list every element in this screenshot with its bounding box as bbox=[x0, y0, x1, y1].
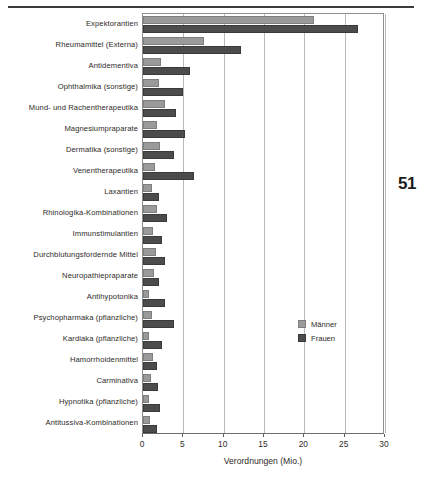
bar-row bbox=[143, 36, 383, 57]
bar-women bbox=[143, 320, 174, 328]
bar-women bbox=[143, 383, 158, 391]
bar-men bbox=[143, 353, 153, 361]
bar-row bbox=[143, 120, 383, 141]
gridline bbox=[385, 14, 386, 433]
bar-row bbox=[143, 268, 383, 289]
bar-row bbox=[143, 415, 383, 436]
bar-men bbox=[143, 79, 159, 87]
bar-row bbox=[143, 352, 383, 373]
bar-row bbox=[143, 247, 383, 268]
bar-women bbox=[143, 151, 174, 159]
bar-men bbox=[143, 142, 160, 150]
bar-women bbox=[143, 109, 176, 117]
bar-women bbox=[143, 299, 165, 307]
bar-men bbox=[143, 100, 165, 108]
bar-women bbox=[143, 257, 165, 265]
bar-row bbox=[143, 226, 383, 247]
category-label: Hypnotika (pflanzliche) bbox=[0, 397, 138, 406]
x-tick-mark bbox=[182, 434, 183, 437]
bar-men bbox=[143, 163, 155, 171]
category-label: Rhinologika-Kombinationen bbox=[0, 208, 138, 217]
category-label: Laxantien bbox=[0, 187, 138, 196]
category-label: Carminativa bbox=[0, 376, 138, 385]
x-tick-mark bbox=[303, 434, 304, 437]
bar-row bbox=[143, 141, 383, 162]
bar-row bbox=[143, 183, 383, 204]
bar-women bbox=[143, 236, 162, 244]
x-tick-label: 5 bbox=[180, 439, 185, 449]
bar-row bbox=[143, 310, 383, 331]
bar-men bbox=[143, 227, 153, 235]
category-label: Dermatika (sonstige) bbox=[0, 145, 138, 154]
x-axis-title: Verordnungen (Mio.) bbox=[142, 456, 384, 466]
x-tick-mark bbox=[384, 434, 385, 437]
bar-women bbox=[143, 425, 157, 433]
bar-women bbox=[143, 88, 183, 96]
x-tick-label: 30 bbox=[379, 439, 388, 449]
bar-women bbox=[143, 67, 190, 75]
bar-men bbox=[143, 290, 149, 298]
category-label: Expektorantien bbox=[0, 19, 138, 28]
category-label: Neuropathiepraparate bbox=[0, 271, 138, 280]
x-tick-mark bbox=[344, 434, 345, 437]
bar-row bbox=[143, 331, 383, 352]
category-label: Hamorrhoidenmittel bbox=[0, 355, 138, 364]
bar-women bbox=[143, 130, 185, 138]
x-tick-mark bbox=[263, 434, 264, 437]
bar-women bbox=[143, 404, 160, 412]
category-label: Mund- und Rachentherapeutika bbox=[0, 103, 138, 112]
category-axis-labels: ExpektorantienRheumamittel (Externa)Anti… bbox=[0, 13, 138, 434]
legend-swatch-men bbox=[298, 320, 306, 328]
bar-women bbox=[143, 214, 167, 222]
bar-row bbox=[143, 57, 383, 78]
x-tick-mark bbox=[142, 434, 143, 437]
bar-men bbox=[143, 58, 161, 66]
category-label: Magnesiumpraparate bbox=[0, 124, 138, 133]
bar-men bbox=[143, 37, 204, 45]
bar-men bbox=[143, 205, 157, 213]
x-tick-mark bbox=[223, 434, 224, 437]
x-tick-label: 15 bbox=[258, 439, 267, 449]
bar-chart: ExpektorantienRheumamittel (Externa)Anti… bbox=[0, 0, 428, 490]
bar-row bbox=[143, 373, 383, 394]
bar-men bbox=[143, 416, 150, 424]
bar-women bbox=[143, 278, 159, 286]
bar-men bbox=[143, 395, 149, 403]
legend-label: Frauen bbox=[311, 334, 335, 343]
x-tick-label: 0 bbox=[140, 439, 145, 449]
bar-row bbox=[143, 162, 383, 183]
bar-women bbox=[143, 362, 157, 370]
bar-row bbox=[143, 289, 383, 310]
bar-row bbox=[143, 78, 383, 99]
x-tick-label: 20 bbox=[299, 439, 308, 449]
category-label: Rheumamittel (Externa) bbox=[0, 40, 138, 49]
category-label: Antitussiva-Kombinationen bbox=[0, 418, 138, 427]
category-label: Ophthalmika (sonstige) bbox=[0, 82, 138, 91]
bar-row bbox=[143, 99, 383, 120]
bar-row bbox=[143, 15, 383, 36]
category-label: Antidementiva bbox=[0, 61, 138, 70]
category-label: Durchblutungsfordernde Mittel bbox=[0, 250, 138, 259]
legend-entry: Frauen bbox=[298, 332, 337, 344]
category-label: Antihypotonika bbox=[0, 292, 138, 301]
bar-women bbox=[143, 341, 162, 349]
category-label: Psychopharmaka (pflanzliche) bbox=[0, 313, 138, 322]
bar-men bbox=[143, 16, 314, 24]
plot-area bbox=[142, 13, 384, 434]
bar-men bbox=[143, 332, 149, 340]
bar-row bbox=[143, 394, 383, 415]
bar-women bbox=[143, 46, 241, 54]
legend-label: Männer bbox=[311, 320, 337, 329]
category-label: Immunstimulantien bbox=[0, 229, 138, 238]
bar-men bbox=[143, 311, 152, 319]
x-tick-label: 10 bbox=[218, 439, 227, 449]
bar-women bbox=[143, 193, 159, 201]
bar-women bbox=[143, 25, 358, 33]
category-label: Kardiaka (pflanzliche) bbox=[0, 334, 138, 343]
bar-men bbox=[143, 374, 151, 382]
x-tick-label: 25 bbox=[339, 439, 348, 449]
category-label: Venentherapeutika bbox=[0, 166, 138, 175]
bar-women bbox=[143, 172, 194, 180]
bar-men bbox=[143, 184, 152, 192]
bar-men bbox=[143, 269, 154, 277]
